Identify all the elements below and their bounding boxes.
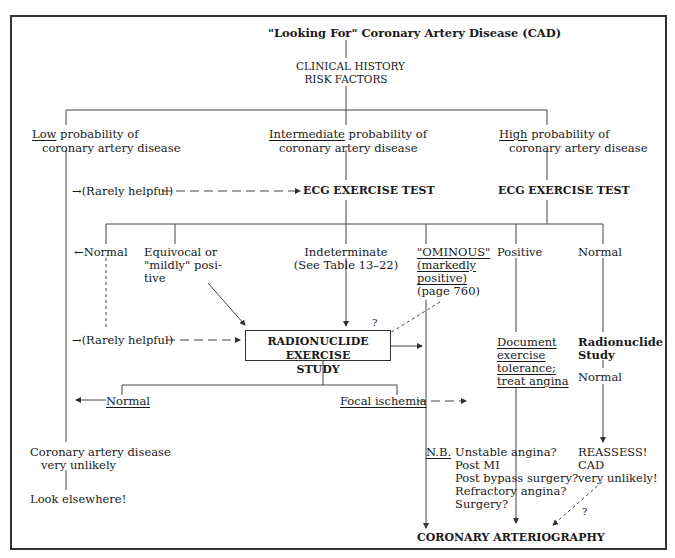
branch-high-line1: High probability of — [499, 127, 610, 141]
document-l4: treat angina — [497, 374, 569, 388]
result-equivocal-l3: tive — [144, 271, 166, 285]
coronary-arteriography: CORONARY ARTERIOGRAPHY — [417, 531, 605, 545]
radionuclide-study-normal: Normal — [578, 370, 622, 384]
ecg-test-intermediate: ECG EXERCISE TEST — [303, 184, 435, 198]
reassess-l2: CAD — [578, 458, 604, 472]
branch-low-line2: coronary artery disease — [42, 141, 180, 155]
nb-label: N.B. — [426, 445, 451, 459]
result-normal-right: Normal — [578, 245, 622, 259]
branch-low-rest: probability of — [56, 127, 138, 141]
document-l2: exercise — [497, 348, 545, 362]
radionuclide-box-line1: RADIONUCLIDE EXERCISE — [246, 335, 390, 363]
nb-item: Surgery? — [455, 497, 508, 511]
result-ominous-l2: (markedly — [417, 258, 476, 272]
result-indeterminate-l1: Indeterminate — [290, 245, 402, 259]
reassess-l1: REASSESS! — [578, 445, 647, 459]
result-positive: Positive — [497, 245, 542, 259]
branch-intermediate-key: Intermediate — [269, 127, 345, 141]
ecg-test-high: ECG EXERCISE TEST — [498, 184, 630, 198]
branch-high-line2: coronary artery disease — [509, 141, 647, 155]
document-l1: Document — [497, 335, 557, 349]
branch-low-key: Low — [32, 127, 56, 141]
branch-intermediate-line2: coronary artery disease — [279, 141, 417, 155]
question-mark-lower: ? — [582, 505, 587, 519]
nb-item: Post bypass surgery? — [455, 471, 578, 485]
branch-intermediate-rest: probability of — [345, 127, 427, 141]
branch-high-rest: probability of — [527, 127, 609, 141]
diagram-title: "Looking For" Coronary Artery Disease (C… — [268, 26, 561, 40]
radio-result-normal: Normal — [106, 394, 150, 408]
branch-intermediate-line1: Intermediate probability of — [269, 127, 427, 141]
result-equivocal-l2: "mildly" posi- — [144, 258, 222, 272]
low-outcome-l1: Coronary artery disease — [30, 445, 171, 459]
nb-item: Refractory angina? — [455, 484, 566, 498]
risk-factors-label: RISK FACTORS — [296, 72, 396, 86]
rarely-helpful-top: →(Rarely helpful) — [72, 184, 173, 198]
radionuclide-exercise-study-box: RADIONUCLIDE EXERCISE STUDY — [245, 330, 391, 361]
radionuclide-box-line2: STUDY — [246, 363, 390, 377]
radionuclide-study-l1: Radionuclide — [578, 335, 663, 349]
result-indeterminate-l2: (See Table 13–22) — [290, 258, 402, 272]
result-ominous-l3: positive) — [417, 271, 467, 285]
nb-item: Unstable angina? — [455, 445, 557, 459]
nb-item: Post MI — [455, 458, 500, 472]
result-equivocal-l1: Equivocal or — [144, 245, 217, 259]
branch-high-key: High — [499, 127, 527, 141]
result-ominous-l4: (page 760) — [417, 284, 480, 298]
question-mark-upper-label: ? — [372, 316, 377, 330]
result-ominous-l1: "OMINOUS" — [417, 245, 490, 259]
result-normal-left: ←Normal — [74, 245, 128, 259]
low-outcome-look-elsewhere: Look elsewhere! — [30, 492, 126, 506]
document-l3: tolerance; — [497, 361, 556, 375]
reassess-l3: very unlikely! — [578, 471, 658, 485]
radionuclide-study-l2: Study — [578, 348, 615, 362]
branch-low-line1: Low probability of — [32, 127, 138, 141]
clinical-history-label: CLINICAL HISTORY — [296, 59, 396, 73]
radio-result-focal-ischemia: Focal ischemia — [340, 394, 427, 408]
rarely-helpful-lower: →(Rarely helpful) — [72, 333, 173, 347]
low-outcome-l2: very unlikely — [41, 458, 116, 472]
